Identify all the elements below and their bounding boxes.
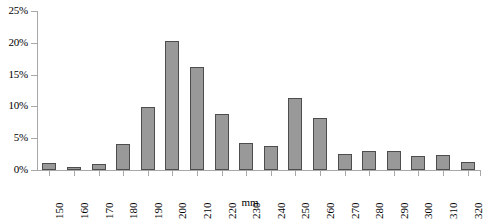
- bar: [165, 41, 179, 170]
- x-axis-tick: [222, 171, 223, 176]
- x-axis-line: [37, 170, 481, 171]
- y-axis-tick: [31, 170, 37, 171]
- y-axis-tick-label: 25%: [0, 5, 28, 16]
- x-axis-tick: [246, 171, 247, 176]
- x-axis-tick: [418, 171, 419, 176]
- x-axis-tick: [345, 171, 346, 176]
- y-axis-tick-label: 20%: [0, 37, 28, 48]
- y-axis-tick-label: 15%: [0, 69, 28, 80]
- bar: [42, 163, 56, 170]
- bar: [215, 114, 229, 170]
- x-axis-tick: [123, 171, 124, 176]
- bar: [92, 164, 106, 170]
- bar: [362, 151, 376, 170]
- x-axis-tick: [468, 171, 469, 176]
- bar-slot: [308, 11, 333, 170]
- bar: [461, 162, 475, 170]
- y-axis-tick-label: 5%: [0, 132, 28, 143]
- bar-slot: [406, 11, 431, 170]
- bar-slot: [431, 11, 456, 170]
- bar: [190, 67, 204, 170]
- bar-slot: [455, 11, 480, 170]
- bar: [141, 107, 155, 170]
- bar-slot: [332, 11, 357, 170]
- bar-slot: [209, 11, 234, 170]
- bar-slot: [111, 11, 136, 170]
- bar: [239, 143, 253, 170]
- bar: [67, 167, 81, 170]
- bar: [436, 155, 450, 170]
- bar-slot: [357, 11, 382, 170]
- x-axis-tick: [443, 171, 444, 176]
- bar-slot: [185, 11, 210, 170]
- bar: [288, 98, 302, 170]
- x-axis-title: mm: [0, 196, 500, 208]
- x-axis-tick: [148, 171, 149, 176]
- y-axis-tick-label: 0%: [0, 164, 28, 175]
- bar-slot: [234, 11, 259, 170]
- x-axis-tick: [197, 171, 198, 176]
- bar: [338, 154, 352, 170]
- x-axis-tick: [172, 171, 173, 176]
- bar-slot: [160, 11, 185, 170]
- bar: [264, 146, 278, 170]
- x-axis-tick: [74, 171, 75, 176]
- x-axis-tick: [295, 171, 296, 176]
- y-axis-tick-label: 10%: [0, 100, 28, 111]
- x-axis-tick: [271, 171, 272, 176]
- histogram-chart: 0%5%10%15%20%25% 15016017018019020021022…: [0, 0, 500, 220]
- bar-slot: [37, 11, 62, 170]
- bar: [411, 156, 425, 170]
- x-axis-tick: [320, 171, 321, 176]
- bar-slot: [135, 11, 160, 170]
- bar-slot: [62, 11, 87, 170]
- bar-slot: [382, 11, 407, 170]
- bar-slot: [283, 11, 308, 170]
- x-axis-tick: [99, 171, 100, 176]
- x-axis-tick: [480, 171, 481, 176]
- bar-slot: [86, 11, 111, 170]
- bar-slot: [259, 11, 284, 170]
- bar: [116, 144, 130, 170]
- x-axis-tick: [369, 171, 370, 176]
- x-axis-tick: [49, 171, 50, 176]
- bar: [387, 151, 401, 170]
- x-axis-tick: [394, 171, 395, 176]
- bar: [313, 118, 327, 170]
